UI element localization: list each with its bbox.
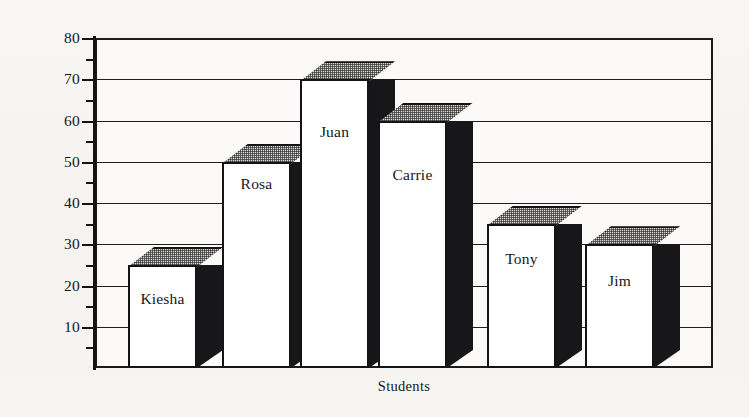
y-tick-major-10 bbox=[82, 327, 95, 329]
y-tick-major-40 bbox=[82, 203, 95, 205]
x-axis-title: Students bbox=[95, 378, 713, 395]
bar-top-face bbox=[487, 206, 582, 226]
y-tick-minor-65 bbox=[86, 100, 95, 102]
bar-front-face bbox=[487, 224, 556, 368]
bar-top-face bbox=[378, 103, 473, 123]
gridline-80 bbox=[95, 38, 713, 39]
y-tick-minor-55 bbox=[86, 141, 95, 143]
bar-top-face bbox=[128, 247, 223, 267]
bar-front-face bbox=[128, 265, 197, 368]
bar-side-face bbox=[447, 121, 473, 369]
y-tick-minor-15 bbox=[86, 306, 95, 308]
y-tick-minor-5 bbox=[86, 347, 95, 349]
y-tick-minor-35 bbox=[86, 224, 95, 226]
y-tick-label-30: 30 bbox=[34, 235, 80, 253]
bar-top-face bbox=[585, 226, 680, 246]
bar-side-face bbox=[556, 224, 582, 368]
y-tick-label-10: 10 bbox=[34, 318, 80, 336]
bar-side-face bbox=[654, 244, 680, 368]
y-tick-label-40: 40 bbox=[34, 194, 80, 212]
y-tick-minor-45 bbox=[86, 182, 95, 184]
y-tick-major-60 bbox=[82, 121, 95, 123]
bar-side-face bbox=[197, 265, 223, 368]
bar-front-face bbox=[300, 79, 369, 368]
y-tick-label-50: 50 bbox=[34, 153, 80, 171]
y-tick-major-20 bbox=[82, 286, 95, 288]
y-tick-label-20: 20 bbox=[34, 277, 80, 295]
y-tick-major-80 bbox=[82, 38, 95, 40]
y-tick-minor-75 bbox=[86, 59, 95, 61]
y-tick-major-30 bbox=[82, 244, 95, 246]
y-tick-major-70 bbox=[82, 79, 95, 81]
bar-tony[interactable] bbox=[487, 206, 582, 368]
gridline-70 bbox=[95, 79, 713, 80]
y-axis-tick-labels-group: 1020304050607080 bbox=[24, 0, 80, 417]
y-tick-minor-25 bbox=[86, 265, 95, 267]
y-tick-major-50 bbox=[82, 162, 95, 164]
y-tick-label-60: 60 bbox=[34, 112, 80, 130]
bar-front-face bbox=[378, 121, 447, 369]
earthworm-bar-chart-figure: Number of Earthworms Per Square Foot 102… bbox=[0, 0, 749, 417]
y-tick-label-70: 70 bbox=[34, 70, 80, 88]
bar-front-face bbox=[222, 162, 291, 368]
y-tick-label-80: 80 bbox=[34, 29, 80, 47]
bar-kiesha[interactable] bbox=[128, 247, 223, 368]
bar-top-face bbox=[300, 61, 395, 81]
bar-front-face bbox=[585, 244, 654, 368]
bar-jim[interactable] bbox=[585, 226, 680, 368]
bar-carrie[interactable] bbox=[378, 103, 473, 369]
